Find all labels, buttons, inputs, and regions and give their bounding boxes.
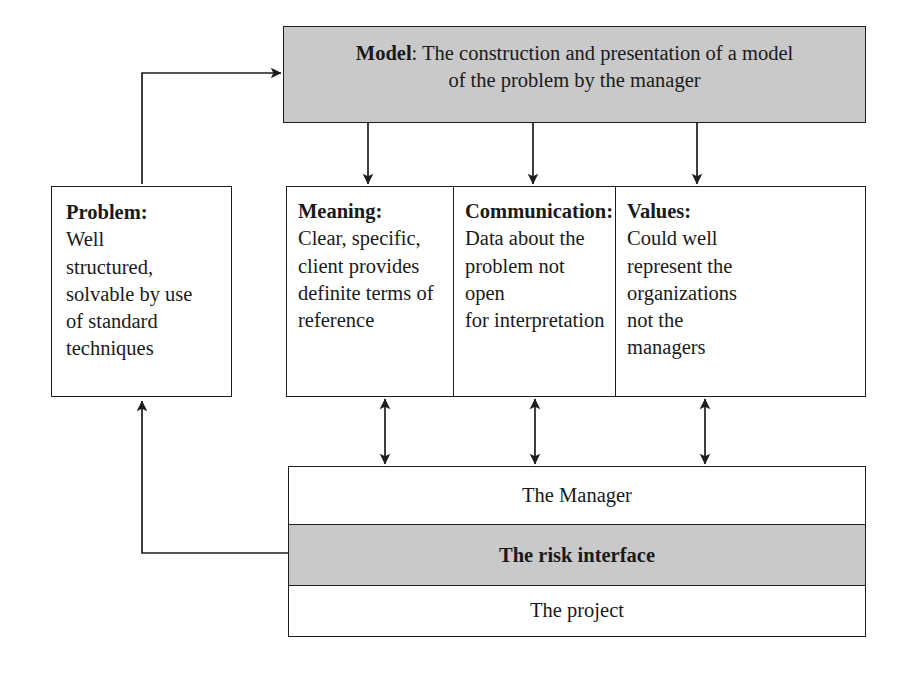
- values-line: managers: [627, 334, 857, 361]
- model-box-header: Model: [356, 42, 412, 64]
- values-line: not the: [627, 307, 857, 334]
- communication-column: Communication: Data about the problem no…: [453, 187, 615, 396]
- meaning-text: Meaning: Clear, specific, client provide…: [287, 187, 453, 342]
- problem-box-header: Problem:: [66, 199, 219, 226]
- communication-header: Communication:: [465, 198, 607, 225]
- connector-risk-interface-to-problem: [142, 401, 288, 553]
- problem-box-line: of standard: [66, 308, 219, 335]
- problem-box: Problem: Well structured, solvable by us…: [51, 186, 232, 397]
- stack-row-project-label: The project: [530, 599, 624, 622]
- stack-row-manager-label: The Manager: [522, 484, 632, 507]
- stack-row-project: The project: [289, 586, 865, 635]
- connector-problem-to-model: [142, 73, 281, 184]
- meaning-line: reference: [298, 307, 445, 334]
- meaning-column: Meaning: Clear, specific, client provide…: [287, 187, 453, 396]
- communication-line: Data about the: [465, 225, 607, 252]
- values-line: organizations: [627, 280, 857, 307]
- meaning-header: Meaning:: [298, 198, 445, 225]
- problem-box-line: techniques: [66, 335, 219, 362]
- problem-box-line: Well: [66, 226, 219, 253]
- meaning-line: Clear, specific,: [298, 225, 445, 252]
- communication-text: Communication: Data about the problem no…: [454, 187, 615, 342]
- values-header: Values:: [627, 198, 857, 225]
- attributes-band: Meaning: Clear, specific, client provide…: [286, 186, 866, 397]
- model-box-line1: The construction and presentation of a m…: [422, 42, 793, 64]
- values-line: represent the: [627, 253, 857, 280]
- values-text: Values: Could well represent the organiz…: [616, 187, 865, 370]
- model-box-text: Model: The construction and presentation…: [284, 27, 865, 105]
- model-box-line2: of the problem by the manager: [448, 69, 700, 91]
- risk-interface-diagram: Model: The construction and presentation…: [0, 0, 906, 677]
- stack-row-risk-interface-label: The risk interface: [499, 544, 655, 567]
- meaning-line: client provides: [298, 253, 445, 280]
- model-box: Model: The construction and presentation…: [283, 26, 866, 123]
- organization-stack: The Manager The risk interface The proje…: [288, 466, 866, 637]
- communication-line: for interpretation: [465, 307, 607, 334]
- values-column: Values: Could well represent the organiz…: [615, 187, 865, 396]
- problem-box-line: structured,: [66, 254, 219, 281]
- communication-line: problem not open: [465, 253, 607, 308]
- problem-box-line: solvable by use: [66, 281, 219, 308]
- meaning-line: definite terms of: [298, 280, 445, 307]
- stack-row-risk-interface: The risk interface: [289, 524, 865, 586]
- stack-row-manager: The Manager: [289, 467, 865, 524]
- problem-box-text: Problem: Well structured, solvable by us…: [52, 187, 231, 371]
- values-line: Could well: [627, 225, 857, 252]
- model-box-separator: :: [412, 42, 422, 64]
